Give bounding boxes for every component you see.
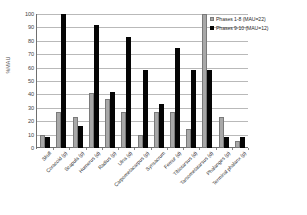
x-tick-mark [199, 148, 200, 150]
legend-label: Phases 9-10 (MAU=12) [216, 25, 268, 31]
x-tick-mark [102, 148, 103, 150]
y-tick-label: 40 [10, 91, 34, 97]
bar-group [102, 14, 118, 148]
bar-group [183, 14, 199, 148]
bar [94, 25, 99, 148]
bar-group [37, 14, 53, 148]
legend-label: Phases 1-8 (MAU=22) [216, 16, 266, 22]
bar-group [53, 14, 69, 148]
plot-area [37, 14, 248, 148]
bar [78, 126, 83, 148]
bar-group [216, 14, 232, 148]
bar [61, 14, 66, 148]
bar-groups [37, 14, 248, 148]
x-tick-mark [86, 148, 87, 150]
x-tick-mark [248, 148, 249, 150]
bar [207, 70, 212, 148]
x-tick-mark [134, 148, 135, 150]
bar [224, 137, 229, 148]
legend-item: Phases 9-10 (MAU=12) [210, 25, 268, 31]
bar-group [69, 14, 85, 148]
y-axis-tick-labels: 0102030405060708090100 [8, 0, 34, 215]
x-tick-mark [69, 148, 70, 150]
x-tick-mark [183, 148, 184, 150]
bar [110, 92, 115, 148]
y-tick-label: 0 [10, 145, 34, 151]
x-tick-mark [53, 148, 54, 150]
x-axis-tick-labels: SkullCoracoid (p)Scapula (p)Humerus (d)R… [37, 150, 248, 214]
bar [159, 104, 164, 148]
y-tick-label: 80 [10, 38, 34, 44]
bar-chart: %MAU 0102030405060708090100 SkullCoracoi… [0, 0, 307, 215]
bar-group [134, 14, 150, 148]
bar [126, 37, 131, 148]
legend: Phases 1-8 (MAU=22)Phases 9-10 (MAU=12) [210, 16, 268, 31]
y-tick-label: 10 [10, 132, 34, 138]
bar-group [86, 14, 102, 148]
bar [143, 70, 148, 148]
y-tick-label: 100 [10, 11, 34, 17]
bar [191, 70, 196, 148]
bar-group [232, 14, 248, 148]
y-tick-label: 90 [10, 24, 34, 30]
bar [240, 137, 245, 148]
bar [175, 48, 180, 149]
x-tick-label: Skull [40, 150, 52, 162]
bar-group [151, 14, 167, 148]
legend-swatch [210, 17, 214, 21]
x-tick-mark [216, 148, 217, 150]
bar-group [167, 14, 183, 148]
bar-group [199, 14, 215, 148]
bar [45, 137, 50, 148]
legend-item: Phases 1-8 (MAU=22) [210, 16, 268, 22]
bar-group [118, 14, 134, 148]
y-tick-label: 50 [10, 78, 34, 84]
x-tick-mark [167, 148, 168, 150]
y-tick-label: 60 [10, 65, 34, 71]
y-tick-label: 30 [10, 105, 34, 111]
x-tick-mark [151, 148, 152, 150]
y-tick-label: 20 [10, 118, 34, 124]
x-tick-mark [118, 148, 119, 150]
legend-swatch [210, 26, 214, 30]
y-tick-label: 70 [10, 51, 34, 57]
x-tick-mark [232, 148, 233, 150]
